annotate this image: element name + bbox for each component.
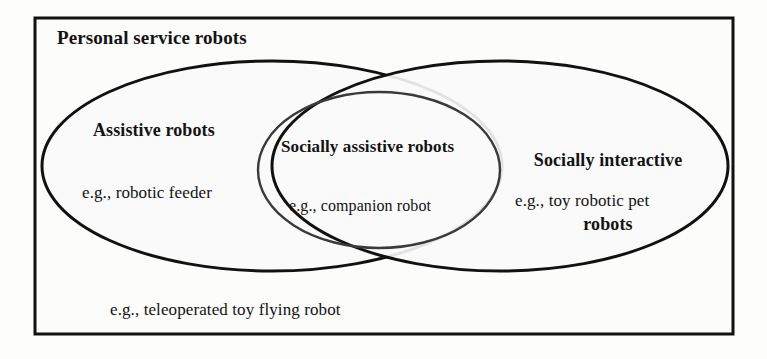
universe-outside-example: e.g., teleoperated toy flying robot [110,300,341,320]
set-label-line-1: Socially interactive [508,150,708,171]
set-example-assistive-robots: e.g., robotic feeder [82,183,212,203]
universe-label: Personal service robots [57,27,247,49]
set-example-socially-assistive-robots: e.g., companion robot [289,197,431,216]
venn-diagram-figure: Personal service robots Assistive robots… [0,0,767,359]
set-example-socially-interactive-robots: e.g., toy robotic pet [515,191,649,211]
set-label-line-2: robots [508,214,708,235]
set-label-assistive-robots: Assistive robots [93,120,215,141]
set-label-socially-assistive-robots: Socially assistive robots [281,137,454,157]
